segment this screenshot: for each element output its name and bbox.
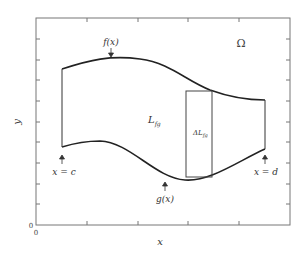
- lower-curve-g: [62, 141, 265, 180]
- region-omega-label: Ω: [236, 37, 245, 50]
- diagram-canvas: f(x) g(x) x = c x = d Ω Lfg ΔLfg x y 0 0: [0, 0, 303, 257]
- upper-curve-label: f(x): [102, 37, 119, 47]
- length-label: Lfg: [147, 114, 161, 128]
- arrows: [60, 48, 268, 191]
- upper-curve-f: [62, 58, 265, 100]
- lower-curve-label: g(x): [156, 194, 174, 204]
- left-bound-label: x = c: [52, 167, 75, 177]
- strip-label: ΔLfg: [192, 129, 208, 139]
- x-origin-label: 0: [34, 229, 38, 237]
- y-axis-ticks: [36, 39, 290, 204]
- y-axis-label: y: [11, 119, 22, 126]
- right-bound-label: x = d: [254, 167, 278, 177]
- x-axis-label: x: [157, 236, 163, 247]
- y-origin-label: 0: [29, 222, 33, 230]
